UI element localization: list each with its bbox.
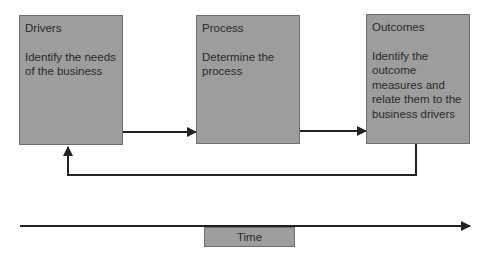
drivers-title: Drivers [25,21,117,36]
process-description: Determine the process [202,50,294,79]
process-box: Process Determine the process [196,15,300,144]
drivers-description: Identify the needs of the business [25,50,117,79]
outcomes-title: Outcomes [372,20,464,35]
feedback-loop-arrow [68,144,416,175]
drivers-box: Drivers Identify the needs of the busine… [19,15,123,145]
time-label-box: Time [204,227,295,247]
outcomes-box: Outcomes Identify the outcome measures a… [366,14,470,144]
time-label: Time [237,231,262,243]
outcomes-description: Identify the outcome measures and relate… [372,49,464,122]
process-title: Process [202,21,294,36]
